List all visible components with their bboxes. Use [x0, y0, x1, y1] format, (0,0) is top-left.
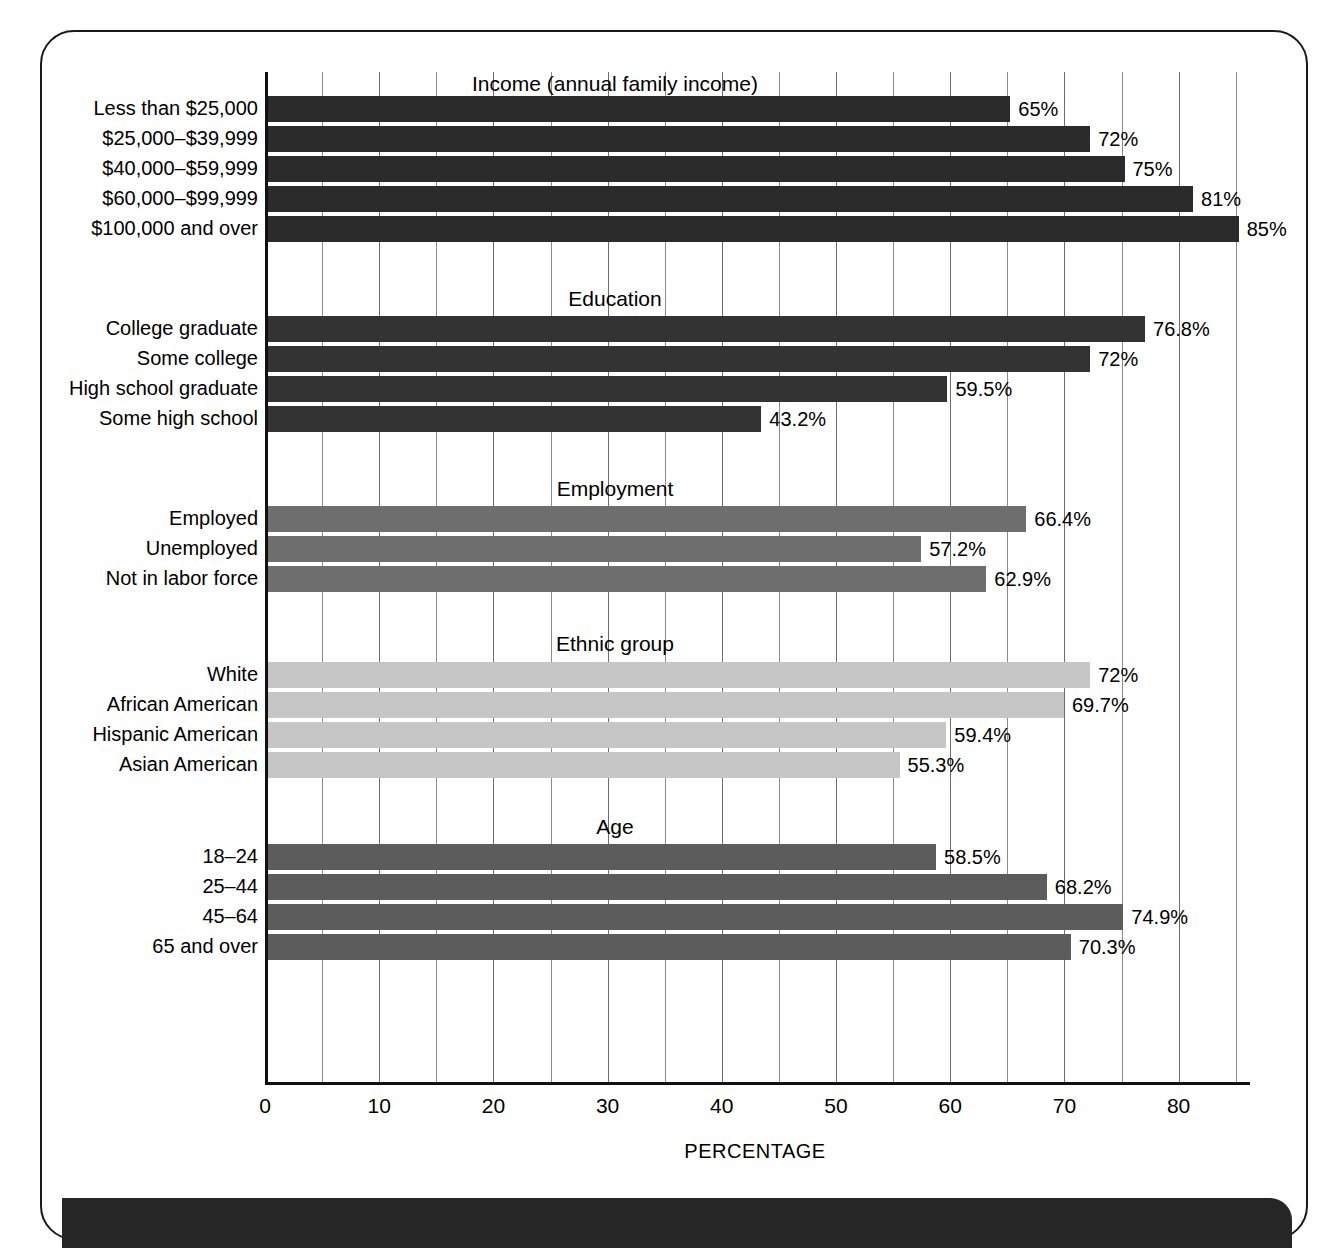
group-title-ethnic-group: Ethnic group — [265, 632, 965, 656]
category-label: White — [0, 659, 258, 689]
x-tick-label-80: 80 — [1149, 1094, 1209, 1118]
category-label: Less than $25,000 — [0, 93, 258, 123]
x-tick-label-70: 70 — [1034, 1094, 1094, 1118]
bar-value-label: 72% — [1098, 124, 1138, 154]
category-label: High school graduate — [0, 373, 258, 403]
bar — [268, 346, 1090, 372]
group-title-education: Education — [265, 287, 965, 311]
category-label: $60,000–$99,999 — [0, 183, 258, 213]
bar — [268, 156, 1125, 182]
bar-value-label: 69.7% — [1072, 690, 1129, 720]
bar — [268, 566, 986, 592]
group-title-employment: Employment — [265, 477, 965, 501]
bar-value-label: 55.3% — [908, 750, 965, 780]
bar — [268, 506, 1026, 532]
bar — [268, 316, 1145, 342]
category-label: $40,000–$59,999 — [0, 153, 258, 183]
bar-value-label: 81% — [1201, 184, 1241, 214]
bar-value-label: 75% — [1133, 154, 1173, 184]
category-label: $100,000 and over — [0, 213, 258, 243]
category-label: Unemployed — [0, 533, 258, 563]
bar — [268, 934, 1071, 960]
group-title-income: Income (annual family income) — [265, 72, 965, 96]
bar-value-label: 68.2% — [1055, 872, 1112, 902]
category-label: $25,000–$39,999 — [0, 123, 258, 153]
bar — [268, 722, 946, 748]
x-axis-line — [265, 1082, 1250, 1085]
x-axis-title: PERCENTAGE — [265, 1140, 1245, 1163]
category-label: Some college — [0, 343, 258, 373]
bar-value-label: 57.2% — [929, 534, 986, 564]
bar-value-label: 66.4% — [1034, 504, 1091, 534]
bar-value-label: 65% — [1018, 94, 1058, 124]
category-label: Asian American — [0, 749, 258, 779]
bar — [268, 186, 1193, 212]
category-label: College graduate — [0, 313, 258, 343]
bar — [268, 844, 936, 870]
bar-value-label: 74.9% — [1131, 902, 1188, 932]
bar — [268, 376, 947, 402]
x-tick-label-40: 40 — [692, 1094, 752, 1118]
bar-value-label: 59.5% — [955, 374, 1012, 404]
category-label: Employed — [0, 503, 258, 533]
x-tick-label-10: 10 — [349, 1094, 409, 1118]
bar — [268, 216, 1239, 242]
bar — [268, 96, 1010, 122]
category-label: Not in labor force — [0, 563, 258, 593]
demographic-bar-chart: Less than $25,000$25,000–$39,999$40,000–… — [0, 0, 1335, 1248]
category-label: African American — [0, 689, 258, 719]
bar — [268, 692, 1064, 718]
category-label: 45–64 — [0, 901, 258, 931]
x-tick-label-0: 0 — [235, 1094, 295, 1118]
bar-value-label: 72% — [1098, 660, 1138, 690]
category-label: Hispanic American — [0, 719, 258, 749]
bar — [268, 662, 1090, 688]
category-label: 65 and over — [0, 931, 258, 961]
x-tick-label-50: 50 — [806, 1094, 866, 1118]
bar — [268, 126, 1090, 152]
bar-value-label: 76.8% — [1153, 314, 1210, 344]
x-tick-label-20: 20 — [463, 1094, 523, 1118]
bar — [268, 904, 1123, 930]
bar — [268, 874, 1047, 900]
bar-value-label: 62.9% — [994, 564, 1051, 594]
bar-value-label: 58.5% — [944, 842, 1001, 872]
bar — [268, 406, 761, 432]
caption-band — [62, 1198, 1292, 1248]
bar — [268, 752, 900, 778]
bar — [268, 536, 921, 562]
category-label: 18–24 — [0, 841, 258, 871]
bar-value-label: 59.4% — [954, 720, 1011, 750]
x-tick-label-30: 30 — [578, 1094, 638, 1118]
category-label: Some high school — [0, 403, 258, 433]
group-title-age: Age — [265, 815, 965, 839]
bar-value-label: 70.3% — [1079, 932, 1136, 962]
bar-value-label: 85% — [1247, 214, 1287, 244]
category-label: 25–44 — [0, 871, 258, 901]
x-tick-label-60: 60 — [920, 1094, 980, 1118]
bar-value-label: 72% — [1098, 344, 1138, 374]
bar-value-label: 43.2% — [769, 404, 826, 434]
